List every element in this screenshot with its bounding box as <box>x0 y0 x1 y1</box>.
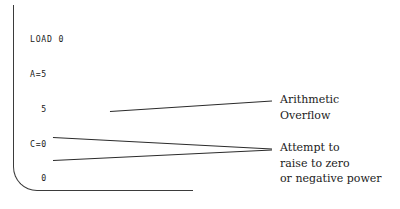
annotation-arithmetic-overflow: Arithmetic Overflow <box>280 92 339 123</box>
annotation-line: or negative power <box>280 171 382 187</box>
leader-line-overflow <box>110 101 272 112</box>
terminal-line: A=5 <box>30 69 104 81</box>
annotation-line: Overflow <box>280 108 339 124</box>
annotation-line: Arithmetic <box>280 92 339 108</box>
terminal-line: D=-1 <box>30 208 104 209</box>
terminal-session-figure: LOAD 0 A=5 5 C=0 0 D=-1 -1 A/0 1.000000E… <box>0 0 400 209</box>
annotation-line: Attempt to <box>280 140 382 156</box>
annotation-line: raise to zero <box>280 156 382 172</box>
terminal-transcript: LOAD 0 A=5 5 C=0 0 D=-1 -1 A/0 1.000000E… <box>30 11 104 209</box>
terminal-line: C=0 <box>30 139 104 151</box>
annotation-zero-or-negative-power: Attempt to raise to zero or negative pow… <box>280 140 382 187</box>
terminal-line: LOAD 0 <box>30 34 104 46</box>
terminal-line: 5 <box>30 104 104 116</box>
terminal-line: 0 <box>30 173 104 185</box>
